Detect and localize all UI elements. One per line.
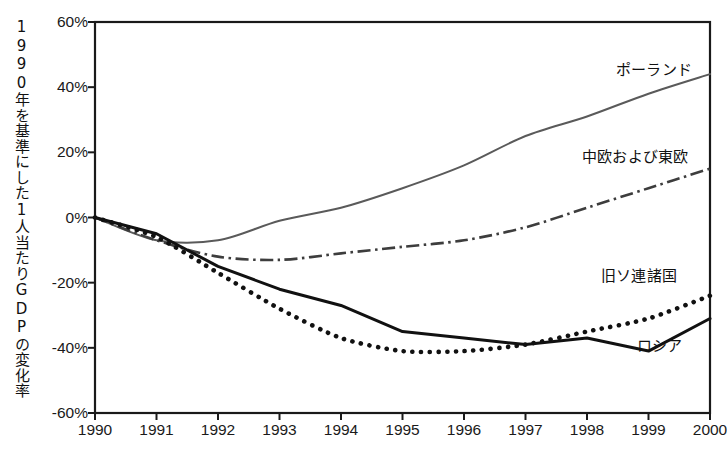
- x-tick-label: 2000: [693, 421, 727, 439]
- y-tick-label: -20%: [36, 274, 88, 292]
- series-label-central-eastern-europe: 中欧および東欧: [582, 145, 688, 166]
- axis-tick-marks: [88, 22, 710, 420]
- y-tick-label: 60%: [36, 13, 88, 31]
- y-tick-label: -60%: [36, 404, 88, 422]
- axis-frame: [95, 22, 710, 413]
- y-axis-tick-labels: 60%40%20%0%-20%-40%-60%: [26, 0, 88, 469]
- series-label-russia: ロシア: [637, 334, 683, 355]
- x-tick-label: 1998: [570, 421, 604, 439]
- x-tick-label: 1994: [324, 421, 358, 439]
- x-tick-label: 1995: [385, 421, 419, 439]
- x-tick-label: 1999: [631, 421, 665, 439]
- y-tick-label: -40%: [36, 339, 88, 357]
- series-line: [95, 169, 710, 260]
- x-tick-label: 1991: [139, 421, 173, 439]
- series-lines: [95, 74, 710, 352]
- series-label-former-soviet-union: 旧ソ連諸国: [601, 264, 677, 285]
- series-label-poland: ポーランド: [616, 58, 692, 79]
- x-tick-label: 1992: [201, 421, 235, 439]
- y-tick-label: 40%: [36, 78, 88, 96]
- x-tick-label: 1990: [78, 421, 112, 439]
- y-tick-label: 0%: [36, 209, 88, 227]
- y-tick-label: 20%: [36, 143, 88, 161]
- x-tick-label: 1996: [447, 421, 481, 439]
- x-tick-label: 1993: [262, 421, 296, 439]
- x-axis-tick-labels: 1990199119921993199419951996199719981999…: [0, 421, 726, 451]
- x-tick-label: 1997: [508, 421, 542, 439]
